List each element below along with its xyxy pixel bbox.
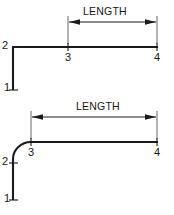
- node-label-2-bottom: 2: [2, 156, 8, 167]
- arrow-right-icon-bottom: [145, 114, 156, 120]
- arrow-left-icon-bottom: [32, 114, 43, 120]
- node-label-1-bottom: 1: [4, 193, 10, 204]
- node-label-3-bottom: 3: [28, 147, 34, 158]
- diagram-canvas: LENGTH 2 1 3 4 LENGTH 2 1 3 4: [0, 0, 174, 215]
- node-label-3-top: 3: [65, 52, 71, 63]
- node-label-1-top: 1: [4, 82, 10, 93]
- arrow-left-icon-top: [69, 19, 80, 25]
- node-label-4-bottom: 4: [154, 147, 160, 158]
- node-label-4-top: 4: [154, 52, 160, 63]
- dimension-label-length-top: LENGTH: [83, 6, 127, 17]
- dimension-label-length-bottom: LENGTH: [76, 101, 120, 112]
- figure-sharp-corner: [9, 16, 158, 90]
- node-label-2-top: 2: [2, 40, 8, 51]
- arrow-right-icon-top: [145, 19, 156, 25]
